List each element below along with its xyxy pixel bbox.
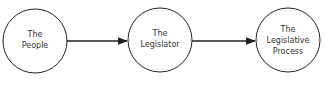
- node-people: The People: [3, 9, 67, 73]
- node-legislator-line-1: The: [152, 29, 168, 38]
- node-people-line-2: People: [22, 41, 49, 50]
- node-process-line-2: Legislative: [267, 36, 310, 45]
- node-process-line-3: Process: [273, 47, 303, 56]
- node-legislator: The Legislator: [128, 8, 192, 72]
- flow-diagram: The People The Legislator The Legislativ…: [0, 0, 325, 89]
- node-legislator-line-2: Legislator: [140, 40, 180, 49]
- node-people-line-1: The: [27, 30, 43, 39]
- node-process-line-1: The: [280, 25, 296, 34]
- node-legislative-process: The Legislative Process: [256, 8, 320, 72]
